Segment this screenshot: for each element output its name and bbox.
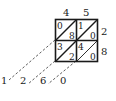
multiplier-digit: 2 <box>101 26 107 37</box>
multiplicand-digit: 4 <box>63 7 69 18</box>
cell-ones-digit: 0 <box>90 52 96 62</box>
result-digit: 6 <box>40 75 46 86</box>
cell-ones-digit: 2 <box>69 52 75 62</box>
multiplier-digit: 8 <box>101 46 107 57</box>
multiplicand-digit: 5 <box>83 7 89 18</box>
result-digit: 0 <box>60 75 66 86</box>
cell-tens-digit: 1 <box>78 21 84 31</box>
cell-ones-digit: 8 <box>69 31 75 41</box>
cell-ones-digit: 0 <box>90 31 96 41</box>
cell-tens-digit: 3 <box>57 42 63 52</box>
lattice-diagram: 4 5 2 8 0 8 1 0 3 2 4 0 1 2 6 0 <box>0 0 116 101</box>
cell-tens-digit: 4 <box>78 42 84 52</box>
cell-tens-digit: 0 <box>57 21 63 31</box>
result-digit: 2 <box>20 75 26 86</box>
result-digit: 1 <box>1 75 7 86</box>
guide-line-1 <box>9 40 55 80</box>
